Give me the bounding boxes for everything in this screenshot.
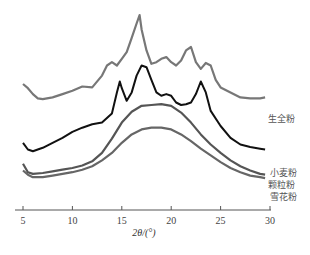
series-label-snowflake-flour: 雪花粉: [270, 191, 297, 202]
x-axis-ticks: 51015202530: [21, 206, 276, 226]
plot-area: [23, 15, 265, 178]
xrd-chart: 51015202530 生全粉 小麦粉 颗粒粉 雪花粉 2θ/(°): [0, 0, 310, 255]
x-tick-label: 25: [216, 215, 226, 226]
series-label-wheat-flour: 小麦粉: [270, 167, 297, 178]
x-tick-label: 30: [265, 215, 275, 226]
x-tick-label: 20: [166, 215, 176, 226]
x-axis-title: 2θ/(°): [132, 227, 156, 239]
series-raw-whole-flour: [23, 15, 265, 99]
series-wheat-flour: [23, 66, 265, 152]
x-tick-label: 15: [117, 215, 127, 226]
x-tick-label: 5: [21, 215, 26, 226]
x-tick-label: 10: [67, 215, 77, 226]
series-label-granular-flour: 颗粒粉: [268, 179, 295, 190]
series-label-raw-whole-flour: 生全粉: [268, 113, 295, 124]
